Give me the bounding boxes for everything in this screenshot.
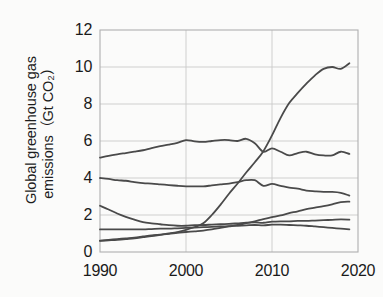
data-lines (100, 63, 349, 241)
grid-lines (100, 30, 358, 252)
chart-figure: Global greenhouse gas emissions（Gt CO₂） … (0, 0, 383, 297)
data-line-high-plateau-declining-series (100, 139, 349, 158)
plot-area (0, 0, 383, 297)
data-line-mid-declining-series (100, 178, 349, 196)
